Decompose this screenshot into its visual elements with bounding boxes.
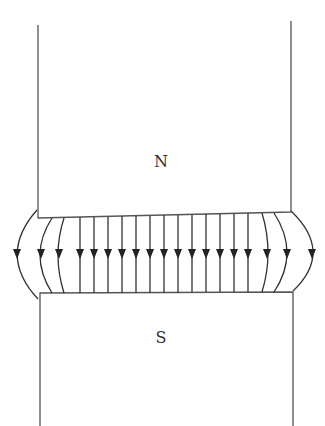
- arrow-down-icon: [283, 249, 291, 259]
- arrow-down-icon: [160, 249, 168, 259]
- arrow-down-icon: [244, 249, 252, 259]
- arrow-down-icon: [202, 249, 210, 259]
- south-pole-outline: [40, 292, 293, 426]
- arrow-down-icon: [308, 249, 316, 259]
- arrow-down-icon: [104, 249, 112, 259]
- north-pole-block: N: [38, 21, 291, 218]
- arrow-down-icon: [230, 249, 238, 259]
- arrow-down-icon: [146, 249, 154, 259]
- arrow-down-icon: [263, 249, 271, 259]
- arrow-down-icon: [13, 249, 21, 259]
- arrow-down-icon: [37, 249, 45, 259]
- south-pole-label: S: [156, 328, 167, 347]
- magnet-field-diagram: N S: [0, 0, 325, 426]
- arrow-down-icon: [90, 249, 98, 259]
- arrow-down-icon: [174, 249, 182, 259]
- arrow-down-icon: [132, 249, 140, 259]
- north-pole-outline: [38, 21, 291, 218]
- field-line-fringe-left-outer: [17, 210, 38, 299]
- arrow-down-icon: [76, 249, 84, 259]
- arrow-down-icon: [216, 249, 224, 259]
- arrow-down-icon: [55, 249, 63, 259]
- arrow-down-icon: [118, 249, 126, 259]
- arrow-down-icon: [188, 249, 196, 259]
- south-pole-block: S: [40, 292, 293, 426]
- north-pole-label: N: [154, 152, 168, 171]
- field-arrows: [13, 249, 316, 259]
